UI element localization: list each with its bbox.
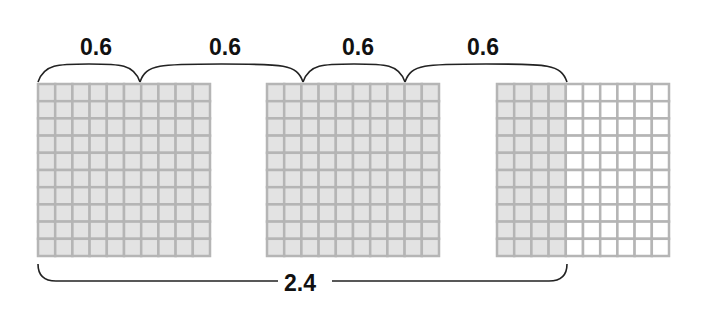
grid-2-cell: [336, 187, 353, 204]
grid-1-cell: [158, 84, 175, 101]
grid-2-cell: [387, 170, 404, 187]
grid-1-cell: [158, 153, 175, 170]
grid-2-cell: [336, 222, 353, 239]
grid-1-cell: [141, 222, 158, 239]
grid-3-cell: [514, 187, 531, 204]
grid-3-cell: [600, 187, 617, 204]
grid-1-cell: [55, 153, 72, 170]
grid-2-cell: [422, 222, 439, 239]
grid-2-cell: [370, 136, 387, 153]
grid-1-cell: [90, 153, 107, 170]
grid-2-cell: [301, 136, 318, 153]
grid-3-cell: [514, 204, 531, 221]
grid-2-cell: [387, 84, 404, 101]
grid-3-cell: [549, 239, 566, 256]
grid-3-cell: [514, 101, 531, 118]
grid-1-cell: [141, 204, 158, 221]
grid-2-cell: [301, 101, 318, 118]
grid-3-cell: [514, 239, 531, 256]
grid-3-cell: [617, 170, 634, 187]
grid-2-cell: [422, 136, 439, 153]
grid-2-cell: [387, 136, 404, 153]
grid-3-cell: [635, 239, 652, 256]
grid-1-cell: [107, 118, 124, 135]
grid-1-cell: [193, 239, 210, 256]
grid-3-cell: [600, 204, 617, 221]
grid-3-cell: [617, 118, 634, 135]
grid-3-cell: [652, 118, 669, 135]
grid-1-cell: [193, 187, 210, 204]
grid-3-cell: [531, 187, 548, 204]
grid-1-cell: [55, 204, 72, 221]
grid-1-cell: [107, 204, 124, 221]
grid-1-cell: [158, 239, 175, 256]
grid-3-cell: [600, 153, 617, 170]
grid-1-cell: [141, 84, 158, 101]
grid-1-cell: [107, 239, 124, 256]
grid-3-cell: [514, 118, 531, 135]
grid-3-cell: [531, 101, 548, 118]
grid-1-cell: [107, 187, 124, 204]
grid-2-cell: [387, 153, 404, 170]
grid-3-cell: [583, 153, 600, 170]
grid-3-cell: [635, 222, 652, 239]
grid-1-cell: [72, 84, 89, 101]
grid-2-cell: [284, 204, 301, 221]
grid-3-cell: [617, 187, 634, 204]
grid-2-cell: [370, 239, 387, 256]
grid-2-cell: [301, 187, 318, 204]
grid-3-cell: [514, 136, 531, 153]
grid-2-cell: [284, 153, 301, 170]
grid-1-cell: [176, 153, 193, 170]
grid-3-cell: [549, 101, 566, 118]
grid-1-cell: [193, 222, 210, 239]
grid-3-cell: [531, 136, 548, 153]
grid-2-cell: [284, 84, 301, 101]
grid-3-cell: [635, 84, 652, 101]
bottom-brace-right: [332, 264, 567, 281]
grid-3-cell: [497, 84, 514, 101]
grid-2-cell: [370, 84, 387, 101]
grid-3-cell: [635, 101, 652, 118]
grid-3-cell: [635, 187, 652, 204]
grid-2-cell: [387, 222, 404, 239]
grid-3-cell: [497, 101, 514, 118]
grid-2-cell: [336, 118, 353, 135]
grid-3-cell: [617, 153, 634, 170]
grid-3-cell: [497, 239, 514, 256]
grid-2-cell: [301, 204, 318, 221]
grid-2-cell: [267, 222, 284, 239]
grid-3-cell: [566, 101, 583, 118]
grid-3-cell: [566, 187, 583, 204]
grid-1-cell: [176, 136, 193, 153]
grid-1-cell: [141, 170, 158, 187]
grid-3-cell: [566, 239, 583, 256]
grid-2-cell: [284, 170, 301, 187]
grid-1-cell: [72, 170, 89, 187]
grid-1-cell: [55, 84, 72, 101]
grid-1-cell: [38, 101, 55, 118]
grid-1-cell: [124, 84, 141, 101]
grid-3-cell: [617, 222, 634, 239]
grid-3-cell: [549, 118, 566, 135]
grid-2-cell: [405, 239, 422, 256]
grid-3-cell: [497, 118, 514, 135]
grid-2-cell: [422, 101, 439, 118]
grid-3-cell: [531, 239, 548, 256]
grid-1-cell: [176, 187, 193, 204]
grid-2-cell: [405, 222, 422, 239]
top-brace-label-3: 0.6: [342, 34, 374, 61]
grid-1-cell: [55, 222, 72, 239]
grid-3-cell: [531, 204, 548, 221]
grid-1-cell: [107, 84, 124, 101]
grid-2-cell: [267, 136, 284, 153]
grid-3-cell: [652, 170, 669, 187]
grid-3-cell: [497, 136, 514, 153]
grid-3-cell: [531, 170, 548, 187]
grid-3-cell: [617, 101, 634, 118]
grid-1-cell: [107, 170, 124, 187]
grid-2-cell: [422, 84, 439, 101]
grid-3-cell: [497, 153, 514, 170]
grid-1-cell: [141, 187, 158, 204]
grid-2-cell: [336, 204, 353, 221]
